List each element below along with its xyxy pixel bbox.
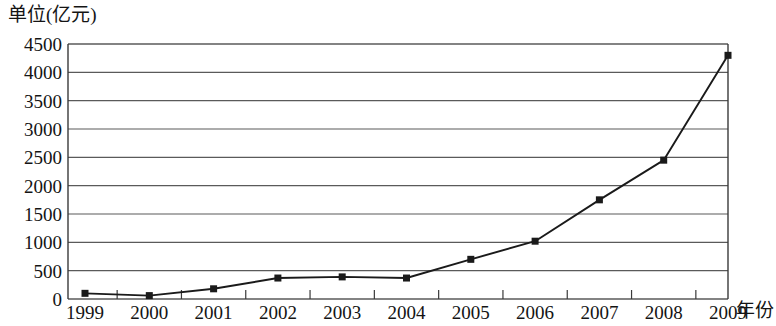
x-tick-label: 2006	[516, 302, 554, 324]
y-tick-label: 500	[0, 261, 62, 280]
data-series	[82, 52, 732, 299]
x-tick-label: 2002	[259, 302, 297, 324]
y-tick-label: 3000	[0, 120, 62, 139]
x-tick-label: 2005	[452, 302, 490, 324]
x-axis-title: 年份	[736, 300, 774, 322]
data-point-marker	[660, 157, 667, 164]
data-point-marker	[339, 273, 346, 280]
y-tick-label: 2500	[0, 148, 62, 167]
line-chart-figure: 单位(亿元) 050010001500200025003000350040004…	[0, 0, 776, 326]
x-tick-label: 2008	[645, 302, 683, 324]
gridlines	[68, 44, 728, 299]
plot-area	[68, 44, 728, 299]
data-point-marker	[82, 290, 89, 297]
x-axis-tick-labels: 1999200020012002200320042005200620072008…	[0, 300, 776, 326]
unit-caption: 单位(亿元)	[8, 2, 97, 28]
y-tick-label: 4500	[0, 35, 62, 54]
x-tick-label: 2003	[323, 302, 361, 324]
data-point-marker	[403, 275, 410, 282]
data-point-marker	[146, 292, 153, 299]
x-tick-label: 2000	[130, 302, 168, 324]
x-tick-label: 2001	[195, 302, 233, 324]
x-tick-label: 1999	[66, 302, 104, 324]
plot-svg	[68, 44, 728, 299]
data-point-marker	[467, 256, 474, 263]
series-markers	[82, 52, 732, 299]
y-tick-label: 1000	[0, 233, 62, 252]
x-axis-tick-marks	[117, 290, 696, 299]
x-tick-label: 2004	[388, 302, 426, 324]
y-tick-label: 2000	[0, 176, 62, 195]
y-tick-label: 3500	[0, 91, 62, 110]
y-axis-tick-labels: 050010001500200025003000350040004500	[0, 32, 62, 312]
y-tick-label: 4000	[0, 63, 62, 82]
series-line	[85, 55, 728, 295]
data-point-marker	[532, 238, 539, 245]
y-tick-label: 1500	[0, 205, 62, 224]
data-point-marker	[210, 285, 217, 292]
x-tick-label: 2007	[580, 302, 618, 324]
data-point-marker	[596, 196, 603, 203]
axis-frame	[68, 44, 728, 299]
data-point-marker	[274, 275, 281, 282]
data-point-marker	[725, 52, 732, 59]
